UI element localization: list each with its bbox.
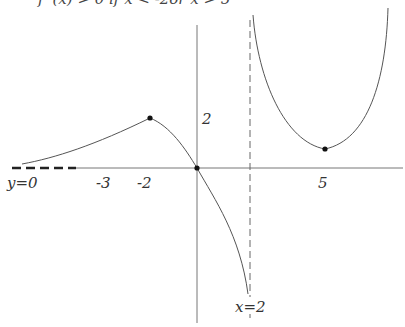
local-maximum-point bbox=[147, 115, 152, 120]
right-branch-curve bbox=[253, 8, 388, 149]
function-graph: f '(x) > 0 if x < -2or x > 5 y=0 -3 -2 2… bbox=[0, 0, 405, 327]
origin-point bbox=[194, 165, 199, 170]
tick-label-neg2: -2 bbox=[137, 174, 152, 192]
tick-label-5: 5 bbox=[318, 174, 328, 192]
left-branch-curve bbox=[22, 118, 248, 294]
horizontal-asymptote-label: y=0 bbox=[6, 174, 38, 192]
y-tick-label-2: 2 bbox=[201, 110, 212, 128]
local-minimum-point bbox=[322, 146, 327, 151]
derivative-condition-text: f '(x) > 0 if x < -2or x > 5 bbox=[37, 0, 230, 8]
tick-label-neg3: -3 bbox=[96, 174, 111, 192]
vertical-asymptote-label: x=2 bbox=[235, 298, 266, 316]
